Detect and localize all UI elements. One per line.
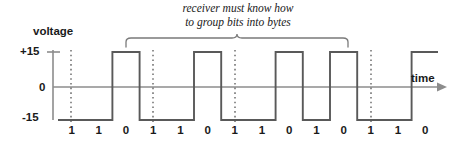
tick-label-minus15: -15 [22, 112, 39, 124]
voltage-axis-label: voltage [33, 26, 73, 38]
bit-label: 1 [389, 125, 407, 137]
tick-label-zero: 0 [39, 82, 45, 94]
byte-group-brace [126, 34, 348, 47]
bit-label: 0 [335, 125, 353, 137]
tick-label-plus15: +15 [20, 46, 40, 58]
brace-annotation: receiver must know how to group bits int… [128, 2, 348, 29]
bit-label: 1 [90, 125, 108, 137]
bit-label: 1 [253, 125, 271, 137]
brace-annotation-line-2: to group bits into bytes [128, 16, 348, 30]
bit-label: 1 [362, 125, 380, 137]
signal-diagram-figure: voltage time +15 0 -15 receiver must kno… [0, 0, 456, 145]
bit-label: 0 [280, 125, 298, 137]
time-axis-arrowhead [437, 83, 447, 92]
signal-waveform-trace [58, 52, 438, 120]
brace-annotation-line-1: receiver must know how [128, 2, 348, 16]
bit-label: 1 [171, 125, 189, 137]
bit-label: 1 [226, 125, 244, 137]
bit-label: 0 [416, 125, 434, 137]
bit-label: 0 [117, 125, 135, 137]
bit-label: 1 [63, 125, 81, 137]
bit-label: 0 [199, 125, 217, 137]
time-axis-label: time [411, 73, 435, 85]
bit-label: 1 [144, 125, 162, 137]
bit-label: 1 [307, 125, 325, 137]
